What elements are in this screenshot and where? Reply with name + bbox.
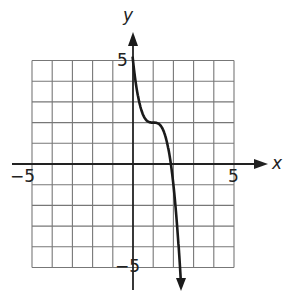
graph-canvas <box>0 0 287 292</box>
curve-arrow-up-icon <box>128 32 138 46</box>
curve-arrow-down-icon <box>176 278 186 291</box>
y-axis-label: y <box>123 5 133 25</box>
x-axis-arrow-icon <box>254 159 268 169</box>
y-min-tick-label: −5 <box>115 256 140 276</box>
x-min-tick-label: −5 <box>10 166 35 186</box>
x-axis-label: x <box>272 153 282 173</box>
y-max-tick-label: 5 <box>117 50 128 70</box>
x-max-tick-label: 5 <box>228 166 239 186</box>
